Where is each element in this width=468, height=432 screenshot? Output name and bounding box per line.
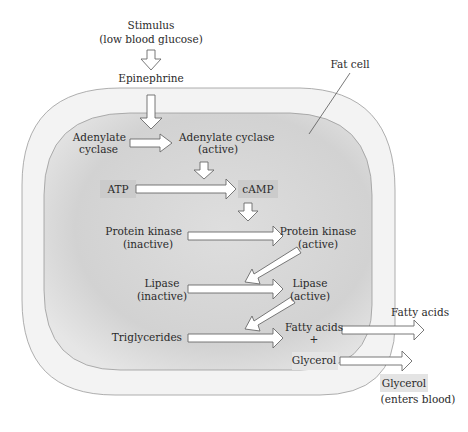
adenylate-cyclase-inactive-label: Adenylate (72, 131, 126, 143)
lipase-inactive-label-2: (inactive) (137, 290, 187, 302)
epinephrine-label: Epinephrine (118, 72, 184, 84)
protein-kinase-inactive-label-2: (inactive) (123, 238, 173, 250)
fatty-acids-inside-label: Fatty acids (285, 321, 343, 333)
protein-kinase-active-label: Protein kinase (280, 225, 357, 237)
camp-label: cAMP (242, 183, 273, 195)
protein-kinase-inactive-label: Protein kinase (105, 225, 182, 237)
lipase-active-label-2: (active) (290, 290, 330, 302)
triglycerides-label: Triglycerides (112, 331, 182, 343)
adenylate-cyclase-active-label-2: (active) (198, 143, 238, 155)
glycerol-inside-label: Glycerol (292, 354, 337, 366)
glycerol-output-label: Glycerol (382, 377, 427, 389)
fatty-acids-output-label: Fatty acids (391, 306, 449, 318)
adenylate-cyclase-inactive-label-2: cyclase (79, 143, 118, 155)
arrow-stimulus-to-epinephrine (141, 50, 161, 70)
adenylate-cyclase-active-label: Adenylate cyclase (178, 131, 275, 143)
lipase-inactive-label: Lipase (145, 277, 180, 289)
fat-cell-label: Fat cell (330, 58, 370, 70)
stimulus-label: Stimulus (128, 19, 175, 31)
pathway-diagram: Stimulus (low blood glucose) Epinephrine… (0, 0, 468, 432)
plus-sign: + (310, 333, 319, 345)
protein-kinase-active-label-2: (active) (298, 238, 338, 250)
lipase-active-label: Lipase (293, 277, 328, 289)
atp-label: ATP (106, 183, 128, 195)
glycerol-output-note: (enters blood) (381, 393, 456, 405)
stimulus-detail-label: (low blood glucose) (99, 33, 203, 45)
